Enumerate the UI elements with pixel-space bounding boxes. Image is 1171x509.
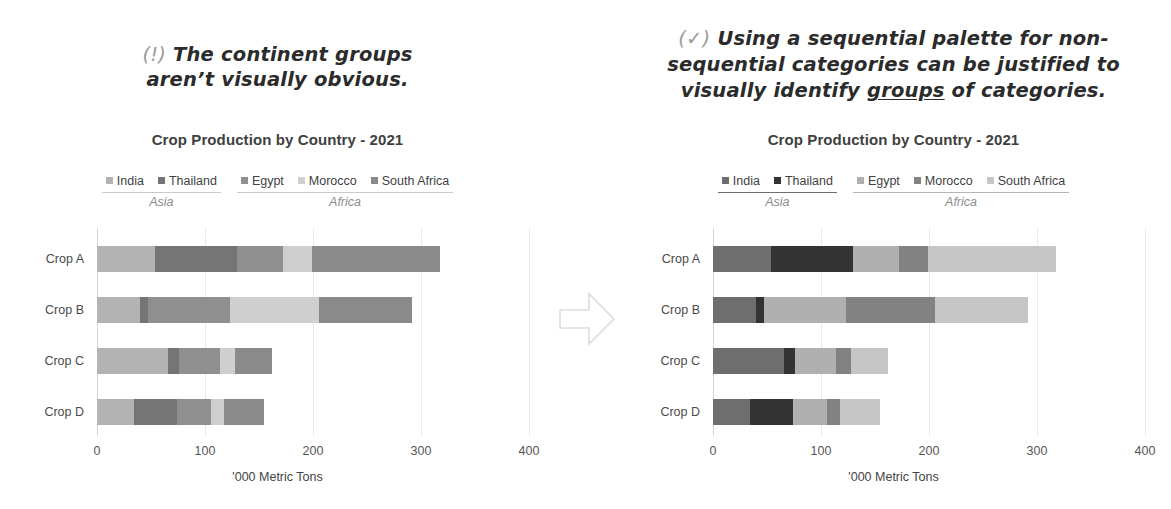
- left-legend-item-india[interactable]: India: [106, 174, 144, 188]
- left-bar-row: Crop D: [0, 399, 555, 425]
- left-bar-segment-thailand[interactable]: [168, 348, 179, 374]
- left-x-tick-300: 300: [411, 444, 432, 458]
- left-bar-segment-egypt[interactable]: [237, 246, 282, 272]
- right-bar-segment-morocco[interactable]: [846, 297, 936, 323]
- right-annotation-line1: Using a sequential palette for non-: [717, 27, 1108, 50]
- right-annotation-line3-pre: visually identify: [681, 79, 867, 102]
- right-x-tick-100: 100: [811, 444, 832, 458]
- left-category-label-crop-b: Crop B: [14, 297, 92, 323]
- right-bar-segment-south-africa[interactable]: [935, 297, 1028, 323]
- right-bar-segment-morocco[interactable]: [899, 246, 928, 272]
- left-bar-segment-thailand[interactable]: [134, 399, 177, 425]
- right-bar-segment-india[interactable]: [713, 246, 771, 272]
- left-bar-row: Crop B: [0, 297, 555, 323]
- left-bar-segment-south-africa[interactable]: [224, 399, 264, 425]
- left-plot-area: Crop ACrop BCrop CCrop D: [0, 228, 555, 436]
- right-legend-group-africa: EgyptMoroccoSouth AfricaAfrica: [853, 172, 1069, 209]
- left-legend-group-rule: [102, 192, 221, 193]
- right-bar-segment-egypt[interactable]: [795, 348, 836, 374]
- right-legend-item-thailand[interactable]: Thailand: [774, 174, 833, 188]
- left-bar-segment-egypt[interactable]: [179, 348, 220, 374]
- legend-swatch-icon: [106, 177, 113, 184]
- left-bar-segment-south-africa[interactable]: [235, 348, 272, 374]
- right-legend-item-south-africa[interactable]: South Africa: [987, 174, 1065, 188]
- left-bar-segment-thailand[interactable]: [155, 246, 237, 272]
- legend-row: IndiaThailand: [102, 172, 221, 189]
- left-x-axis-title: '000 Metric Tons: [0, 470, 555, 484]
- left-bars: Crop ACrop BCrop CCrop D: [0, 228, 555, 436]
- right-arrow-icon: [556, 288, 618, 350]
- left-annotation-line1: The continent groups: [173, 43, 413, 66]
- right-legend-group-name: Africa: [945, 195, 977, 209]
- right-bar-segment-south-africa[interactable]: [840, 399, 880, 425]
- left-bar-segment-egypt[interactable]: [177, 399, 212, 425]
- left-chart-panel: (!) The continent groups aren’t visually…: [0, 0, 555, 509]
- left-bar-segment-morocco[interactable]: [220, 348, 235, 374]
- right-bar-segment-thailand[interactable]: [784, 348, 795, 374]
- left-x-tick-100: 100: [195, 444, 216, 458]
- right-legend-item-egypt[interactable]: Egypt: [857, 174, 900, 188]
- legend-swatch-icon: [371, 177, 378, 184]
- right-annotation-emphasis: groups: [867, 79, 945, 102]
- left-bar-segment-egypt[interactable]: [148, 297, 230, 323]
- left-legend-item-morocco[interactable]: Morocco: [298, 174, 357, 188]
- right-bar-segment-egypt[interactable]: [793, 399, 828, 425]
- right-bar-segment-south-africa[interactable]: [928, 246, 1057, 272]
- right-legend-group-asia: IndiaThailandAsia: [718, 172, 837, 209]
- right-x-tick-0: 0: [710, 444, 717, 458]
- right-bar-segment-south-africa[interactable]: [851, 348, 888, 374]
- right-x-tick-300: 300: [1027, 444, 1048, 458]
- left-bar-row: Crop A: [0, 246, 555, 272]
- legend-label: Morocco: [309, 174, 357, 188]
- right-bar-segment-india[interactable]: [713, 399, 750, 425]
- left-annotation: (!) The continent groups aren’t visually…: [0, 42, 555, 92]
- right-x-tick-200: 200: [919, 444, 940, 458]
- right-bar-segment-egypt[interactable]: [764, 297, 846, 323]
- left-bar-segment-india[interactable]: [97, 348, 168, 374]
- left-bar-segment-india[interactable]: [97, 297, 140, 323]
- legend-swatch-icon: [987, 177, 994, 184]
- right-bar-segment-thailand[interactable]: [750, 399, 793, 425]
- legend-label: Egypt: [252, 174, 284, 188]
- left-annotation-line2: aren’t visually obvious.: [146, 68, 408, 91]
- right-chart-legend: IndiaThailandAsiaEgyptMoroccoSouth Afric…: [616, 172, 1171, 209]
- right-x-axis-title: '000 Metric Tons: [616, 470, 1171, 484]
- left-chart-title: Crop Production by Country - 2021: [0, 131, 555, 148]
- left-bar-segment-south-africa[interactable]: [319, 297, 412, 323]
- left-legend-item-south-africa[interactable]: South Africa: [371, 174, 449, 188]
- legend-label: Morocco: [925, 174, 973, 188]
- right-bar-segment-thailand[interactable]: [756, 297, 764, 323]
- left-legend-item-thailand[interactable]: Thailand: [158, 174, 217, 188]
- left-bar-segment-india[interactable]: [97, 399, 134, 425]
- legend-swatch-icon: [914, 177, 921, 184]
- left-bar-segment-thailand[interactable]: [140, 297, 148, 323]
- legend-row: EgyptMoroccoSouth Africa: [853, 172, 1069, 189]
- left-category-label-crop-c: Crop C: [14, 348, 92, 374]
- left-legend-item-egypt[interactable]: Egypt: [241, 174, 284, 188]
- right-category-label-crop-d: Crop D: [630, 399, 708, 425]
- right-bar-segment-india[interactable]: [713, 297, 756, 323]
- right-x-tick-400: 400: [1135, 444, 1156, 458]
- right-chart-panel: (✓) Using a sequential palette for non- …: [616, 0, 1171, 509]
- legend-swatch-icon: [158, 177, 165, 184]
- right-legend-item-morocco[interactable]: Morocco: [914, 174, 973, 188]
- right-bar-row: Crop A: [616, 246, 1171, 272]
- left-bar-segment-morocco[interactable]: [283, 246, 312, 272]
- right-bar-segment-india[interactable]: [713, 348, 784, 374]
- left-x-tick-200: 200: [303, 444, 324, 458]
- right-bar-segment-egypt[interactable]: [853, 246, 898, 272]
- left-bar-segment-india[interactable]: [97, 246, 155, 272]
- legend-label: India: [117, 174, 144, 188]
- right-legend-item-india[interactable]: India: [722, 174, 760, 188]
- right-bars: Crop ACrop BCrop CCrop D: [616, 228, 1171, 436]
- left-bar-segment-morocco[interactable]: [211, 399, 224, 425]
- legend-label: South Africa: [998, 174, 1065, 188]
- left-bar-segment-morocco[interactable]: [230, 297, 320, 323]
- right-bar-segment-morocco[interactable]: [836, 348, 851, 374]
- left-chart-legend: IndiaThailandAsiaEgyptMoroccoSouth Afric…: [0, 172, 555, 209]
- right-bar-segment-thailand[interactable]: [771, 246, 853, 272]
- right-bar-row: Crop D: [616, 399, 1171, 425]
- legend-swatch-icon: [722, 177, 729, 184]
- right-bar-segment-morocco[interactable]: [827, 399, 840, 425]
- left-bar-segment-south-africa[interactable]: [312, 246, 441, 272]
